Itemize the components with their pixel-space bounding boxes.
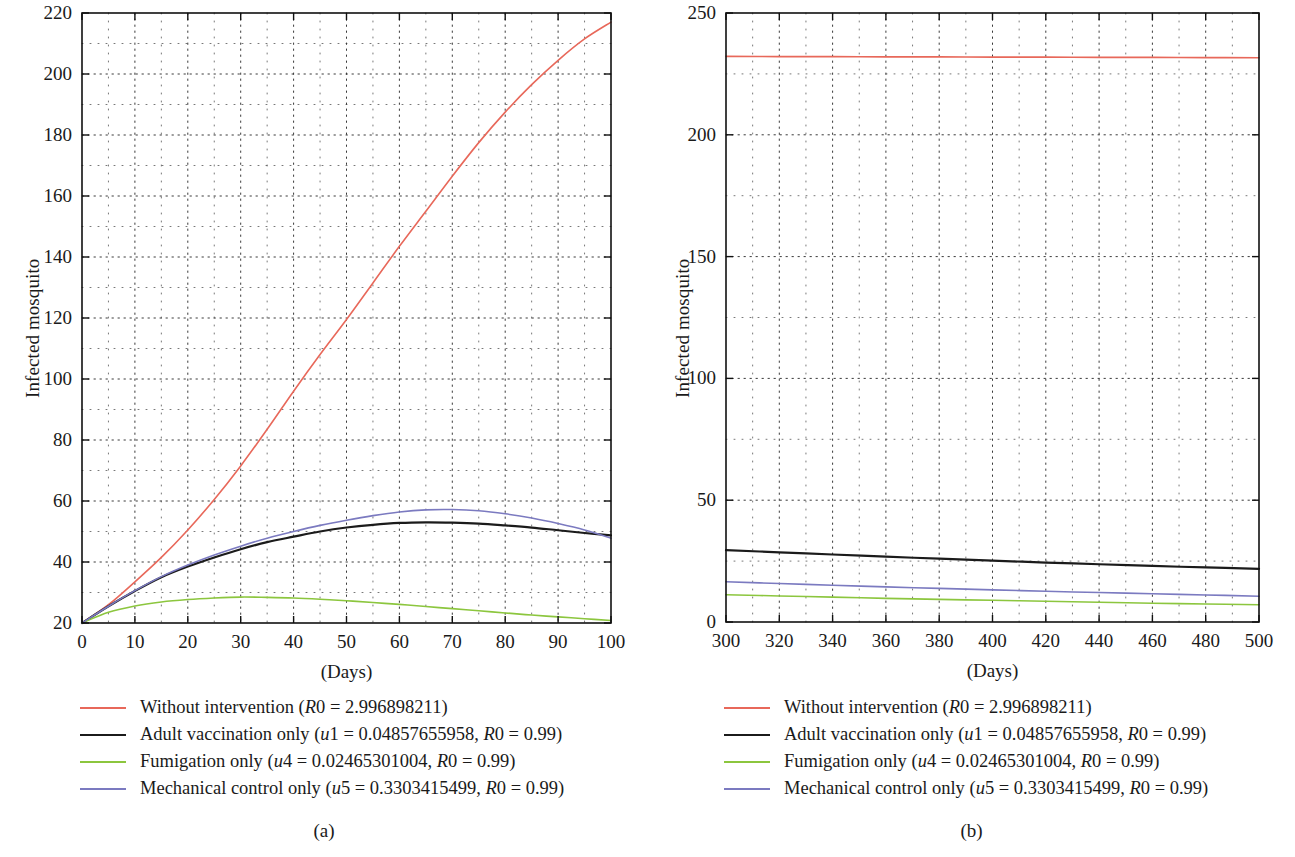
legend-item: Fumigation only (u4 = 0.02465301004, R0 …	[724, 748, 1208, 775]
x-tick-label: 0	[77, 631, 87, 653]
y-tick-label: 180	[0, 124, 72, 146]
legend-item: Fumigation only (u4 = 0.02465301004, R0 …	[80, 748, 564, 775]
x-tick-label: 500	[1245, 630, 1274, 652]
x-tick-label: 340	[818, 630, 847, 652]
x-tick-label: 60	[390, 631, 409, 653]
x-tick-label: 300	[712, 630, 741, 652]
legend-color-swatch	[724, 788, 770, 790]
panel-b-caption: (b)	[648, 820, 1295, 842]
panel-a-x-axis-label: (Days)	[82, 661, 611, 683]
legend-item-label: Adult vaccination only (u1 = 0.048576559…	[784, 725, 1206, 744]
x-tick-label: 360	[872, 630, 901, 652]
y-tick-label: 0	[648, 611, 716, 633]
panel-a: Infected mosquito (Days) Without interve…	[0, 0, 648, 857]
legend-item: Mechanical control only (u5 = 0.33034154…	[724, 775, 1208, 802]
legend-item-label: Adult vaccination only (u1 = 0.048576559…	[140, 725, 562, 744]
figure-two-panel-line-charts: Infected mosquito (Days) Without interve…	[0, 0, 1295, 857]
legend-item-label: Mechanical control only (u5 = 0.33034154…	[140, 779, 564, 798]
y-tick-label: 60	[0, 490, 72, 512]
legend-color-swatch	[724, 707, 770, 709]
x-tick-label: 460	[1138, 630, 1167, 652]
legend-item: Mechanical control only (u5 = 0.33034154…	[80, 775, 564, 802]
legend-color-swatch	[80, 761, 126, 763]
x-tick-label: 90	[549, 631, 568, 653]
x-tick-label: 50	[337, 631, 356, 653]
panel-a-plot-area	[0, 0, 648, 660]
y-tick-label: 50	[648, 489, 716, 511]
x-tick-label: 30	[231, 631, 250, 653]
panel-a-caption: (a)	[0, 820, 648, 842]
legend-item-label: Without intervention (R0 = 2.996898211)	[784, 698, 1092, 717]
y-tick-label: 200	[648, 124, 716, 146]
y-tick-label: 200	[0, 63, 72, 85]
legend-color-swatch	[724, 734, 770, 736]
y-tick-label: 160	[0, 185, 72, 207]
x-tick-label: 420	[1032, 630, 1061, 652]
legend-item-label: Mechanical control only (u5 = 0.33034154…	[784, 779, 1208, 798]
y-tick-label: 20	[0, 612, 72, 634]
panel-b-x-axis-label: (Days)	[726, 660, 1259, 682]
panel-a-legend: Without intervention (R0 = 2.996898211)A…	[80, 694, 564, 802]
x-tick-label: 320	[765, 630, 794, 652]
x-tick-label: 20	[178, 631, 197, 653]
legend-color-swatch	[724, 761, 770, 763]
y-tick-label: 100	[0, 368, 72, 390]
legend-color-swatch	[80, 734, 126, 736]
x-tick-label: 480	[1191, 630, 1220, 652]
panel-b-legend: Without intervention (R0 = 2.996898211)A…	[724, 694, 1208, 802]
legend-item: Adult vaccination only (u1 = 0.048576559…	[724, 721, 1208, 748]
y-tick-label: 250	[648, 2, 716, 24]
legend-item-label: Fumigation only (u4 = 0.02465301004, R0 …	[784, 752, 1159, 771]
x-tick-label: 40	[284, 631, 303, 653]
x-tick-label: 10	[125, 631, 144, 653]
x-tick-label: 380	[925, 630, 954, 652]
legend-item-label: Without intervention (R0 = 2.996898211)	[140, 698, 448, 717]
y-tick-label: 220	[0, 2, 72, 24]
y-tick-label: 140	[0, 246, 72, 268]
y-tick-label: 40	[0, 551, 72, 573]
y-tick-label: 120	[0, 307, 72, 329]
legend-item: Adult vaccination only (u1 = 0.048576559…	[80, 721, 564, 748]
legend-item: Without intervention (R0 = 2.996898211)	[80, 694, 564, 721]
legend-color-swatch	[80, 788, 126, 790]
legend-item-label: Fumigation only (u4 = 0.02465301004, R0 …	[140, 752, 515, 771]
x-tick-label: 70	[443, 631, 462, 653]
x-tick-label: 440	[1085, 630, 1114, 652]
y-tick-label: 100	[648, 367, 716, 389]
panel-b: Infected mosquito (Days) Without interve…	[648, 0, 1295, 857]
panel-b-plot-area	[648, 0, 1295, 660]
y-tick-label: 80	[0, 429, 72, 451]
x-tick-label: 100	[597, 631, 626, 653]
x-tick-label: 400	[978, 630, 1007, 652]
y-tick-label: 150	[648, 246, 716, 268]
legend-item: Without intervention (R0 = 2.996898211)	[724, 694, 1208, 721]
x-tick-label: 80	[496, 631, 515, 653]
legend-color-swatch	[80, 707, 126, 709]
